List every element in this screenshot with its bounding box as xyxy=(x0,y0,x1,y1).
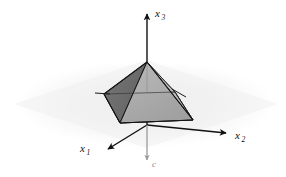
axis-x3-label: x xyxy=(154,7,160,19)
vector-c-label: c xyxy=(152,159,156,169)
cone-diagram-svg: x 3 x xyxy=(0,0,286,177)
axis-x1-label: x xyxy=(79,142,85,154)
axis-x1-subscript: 1 xyxy=(87,148,91,157)
figure-canvas: x 3 x xyxy=(0,0,286,177)
axis-x2-label: x xyxy=(234,129,240,141)
axis-x2-subscript: 2 xyxy=(242,135,246,144)
axis-x3-subscript: 3 xyxy=(161,13,166,22)
